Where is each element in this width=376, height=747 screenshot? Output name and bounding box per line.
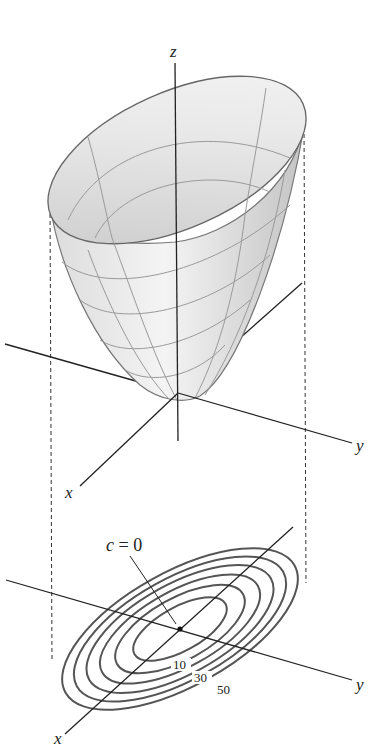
- contour-x-axis-label: x: [53, 729, 62, 747]
- contour-y-axis-label: y: [354, 675, 364, 694]
- surface-panel: z y x: [5, 42, 364, 662]
- level-label-50: 50: [217, 682, 230, 697]
- x-axis-front: [80, 393, 178, 486]
- paraboloid-level-curves-figure: z y x c = 0 10 30 50 y x: [0, 0, 376, 747]
- level-label-30: 30: [194, 670, 207, 685]
- x-axis-label: x: [64, 483, 73, 502]
- c-annotation: c = 0: [106, 535, 142, 555]
- level-label-10: 10: [173, 657, 186, 672]
- origin-point: [177, 626, 182, 631]
- projection-line-right: [304, 127, 306, 583]
- z-axis-label: z: [169, 42, 177, 61]
- y-axis-label: y: [354, 436, 364, 455]
- y-axis-front: [178, 393, 352, 443]
- c-annotation-leader: [130, 556, 176, 624]
- contour-panel: c = 0 10 30 50 y x: [6, 516, 364, 747]
